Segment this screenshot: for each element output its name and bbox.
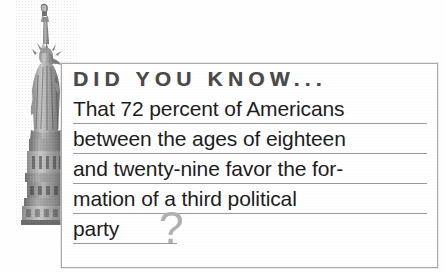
fact-line-text: That 72 percent of Americans	[73, 95, 345, 122]
ruled-line	[73, 183, 427, 184]
fact-line-text: between the ages of eighteen	[73, 125, 346, 152]
fact-line: and twenty-nine favor the for-	[73, 155, 429, 185]
ruled-line	[73, 123, 427, 124]
fact-line: That 72 percent of Americans	[73, 95, 429, 125]
did-you-know-card: DID YOU KNOW... That 72 percent of Ameri…	[0, 0, 446, 273]
ruled-line	[73, 213, 427, 214]
question-mark-glyph: ?	[159, 206, 183, 250]
fact-line: party ?	[73, 215, 429, 245]
card-heading: DID YOU KNOW...	[73, 67, 327, 91]
ruled-line	[73, 153, 427, 154]
fact-line: mation of a third political	[73, 185, 429, 215]
fact-line-text: party	[73, 215, 119, 242]
fact-box: DID YOU KNOW... That 72 percent of Ameri…	[61, 63, 438, 268]
fact-text-block: That 72 percent of Americans between the…	[73, 95, 429, 245]
fact-line: between the ages of eighteen	[73, 125, 429, 155]
fact-line-text: mation of a third political	[73, 185, 297, 212]
fact-line-text: and twenty-nine favor the for-	[73, 155, 343, 182]
